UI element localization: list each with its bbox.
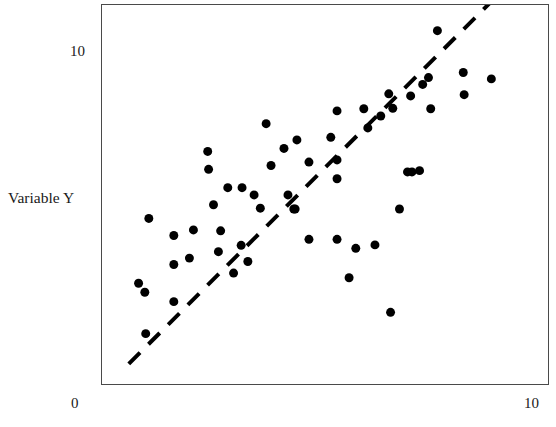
data-point — [433, 26, 442, 35]
data-point — [487, 74, 496, 83]
data-point — [304, 235, 313, 244]
data-point — [216, 226, 225, 235]
y-axis-title: Variable Y — [8, 190, 74, 206]
data-point — [345, 273, 354, 282]
data-point — [424, 73, 433, 82]
data-point — [169, 297, 178, 306]
x-axis-tick-label-10: 10 — [524, 396, 539, 411]
data-points-group — [134, 26, 496, 338]
data-point — [388, 104, 397, 113]
trend-line-segment — [129, 5, 497, 364]
data-point — [333, 174, 342, 183]
data-point — [333, 235, 342, 244]
data-point — [333, 155, 342, 164]
data-point — [134, 279, 143, 288]
data-point — [214, 247, 223, 256]
data-point — [291, 205, 300, 214]
data-point — [140, 288, 149, 297]
data-point — [185, 254, 194, 263]
data-point — [386, 308, 395, 317]
data-point — [304, 158, 313, 167]
data-point — [209, 200, 218, 209]
data-point — [359, 104, 368, 113]
data-point — [415, 166, 424, 175]
data-point — [203, 147, 212, 156]
data-point — [407, 167, 416, 176]
data-point — [169, 231, 178, 240]
data-point — [426, 104, 435, 113]
data-point — [204, 165, 213, 174]
data-point — [376, 112, 385, 121]
data-point — [351, 244, 360, 253]
data-point — [250, 190, 259, 199]
data-point — [279, 144, 288, 153]
x-axis-tick-label-0: 0 — [71, 396, 79, 411]
data-point — [229, 269, 238, 278]
data-point — [262, 119, 271, 128]
plot-area-frame — [101, 4, 549, 385]
data-point — [333, 106, 342, 115]
data-point — [460, 90, 469, 99]
data-point — [418, 80, 427, 89]
data-point — [238, 183, 247, 192]
data-point — [284, 190, 293, 199]
data-point — [395, 205, 404, 214]
data-point — [267, 161, 276, 170]
data-point — [144, 214, 153, 223]
data-point — [292, 135, 301, 144]
y-axis-tick-label-10: 10 — [70, 44, 85, 59]
data-point — [459, 68, 468, 77]
plot-canvas — [102, 5, 548, 384]
data-point — [243, 257, 252, 266]
data-point — [189, 225, 198, 234]
data-point — [223, 183, 232, 192]
data-point — [363, 123, 372, 132]
scatter-plot-figure: Variable Y 10 0 10 — [0, 0, 556, 427]
data-point — [256, 204, 265, 213]
data-point — [237, 241, 246, 250]
data-point — [169, 260, 178, 269]
data-point — [370, 240, 379, 249]
data-point — [141, 329, 150, 338]
trend-line — [129, 5, 497, 364]
data-point — [406, 91, 415, 100]
data-point — [326, 133, 335, 142]
data-point — [384, 89, 393, 98]
